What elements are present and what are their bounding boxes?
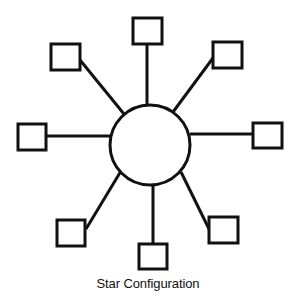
node-top [133, 18, 162, 44]
diagram-caption: Star Configuration [0, 276, 296, 291]
node-right [253, 123, 282, 148]
node-bottom-left [57, 220, 85, 246]
node-top-left-link [80, 60, 124, 114]
node-bottom-left-link [86, 171, 121, 229]
node-top-right-link [173, 58, 213, 112]
central-hub [110, 105, 190, 185]
star-configuration-diagram [0, 0, 296, 299]
node-bottom-right-link [181, 172, 209, 229]
node-bottom-right [209, 217, 238, 243]
node-top-left [51, 44, 80, 70]
node-left [18, 124, 46, 150]
node-top-right [213, 42, 242, 68]
node-bottom [139, 244, 167, 269]
